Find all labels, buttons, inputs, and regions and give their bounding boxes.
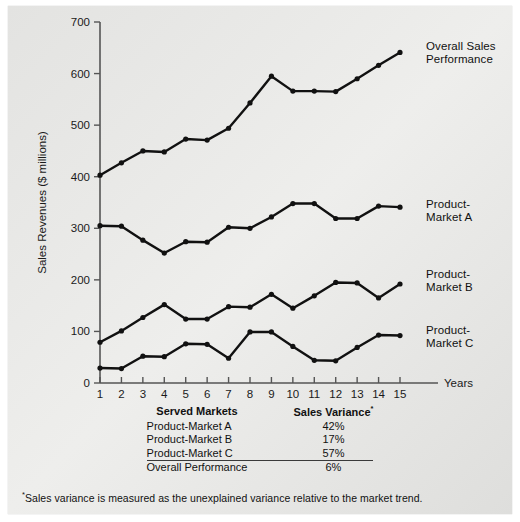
data-point	[97, 340, 102, 345]
footnote-text: Sales variance is measured as the unexpl…	[25, 492, 423, 504]
data-point	[162, 250, 167, 255]
data-point	[333, 280, 338, 285]
y-tick-label: 100	[71, 325, 90, 337]
cell-sales-variance: 17%	[293, 433, 373, 447]
data-point	[162, 149, 167, 154]
x-tick-label: 12	[329, 388, 342, 400]
y-tick-label: 700	[71, 16, 90, 28]
data-point	[290, 344, 295, 349]
data-point	[119, 160, 124, 165]
figure-panel: 0100200300400500600700123456789101112131…	[8, 6, 512, 514]
cell-total-label: Overall Performance	[147, 461, 294, 475]
data-point	[397, 333, 402, 338]
x-tick-label: 13	[351, 388, 364, 400]
table-row: Product-Market C57%	[147, 447, 374, 461]
x-tick-label: 6	[204, 388, 210, 400]
x-tick-label: 11	[308, 388, 320, 400]
data-point	[183, 341, 188, 346]
data-point	[269, 74, 274, 79]
series-label-product-market-a: Product- Market A	[426, 198, 472, 224]
data-point	[247, 329, 252, 334]
data-point	[290, 306, 295, 311]
data-point	[269, 329, 274, 334]
data-point	[290, 201, 295, 206]
data-point	[355, 280, 360, 285]
column-header-sales-variance: Sales Variance*	[293, 404, 373, 420]
table-body: Product-Market A42%Product-Market B17%Pr…	[147, 420, 374, 475]
data-point	[97, 173, 102, 178]
table-row: Product-Market B17%	[147, 433, 374, 447]
series-line-3	[100, 332, 400, 369]
data-point	[312, 358, 317, 363]
data-point	[269, 214, 274, 219]
data-point	[183, 239, 188, 244]
data-point	[397, 281, 402, 286]
cell-market-name: Product-Market A	[147, 420, 294, 434]
column-header-served-markets: Served Markets	[147, 404, 294, 420]
y-axis-title: Sales Revenues ($ millions)	[36, 131, 48, 274]
table-header-row: Served Markets Sales Variance*	[147, 404, 374, 420]
data-point	[376, 332, 381, 337]
data-point	[140, 148, 145, 153]
x-tick-label: 5	[183, 388, 189, 400]
data-point	[333, 358, 338, 363]
data-point	[97, 223, 102, 228]
cell-total-variance: 6%	[293, 461, 373, 475]
data-point	[290, 89, 295, 94]
x-tick-label: 3	[140, 388, 146, 400]
data-point	[183, 136, 188, 141]
table-row-total: Overall Performance6%	[147, 461, 374, 475]
data-point	[376, 63, 381, 68]
y-tick-label: 200	[71, 274, 90, 286]
y-tick-label: 300	[71, 222, 90, 234]
data-point	[205, 342, 210, 347]
data-point	[119, 224, 124, 229]
data-point	[119, 328, 124, 333]
x-tick-label: 8	[247, 388, 253, 400]
x-tick-label: 10	[286, 388, 299, 400]
data-point	[226, 225, 231, 230]
column-header-sales-variance-text: Sales Variance	[293, 406, 370, 418]
data-point	[397, 205, 402, 210]
x-tick-label: 2	[118, 388, 124, 400]
data-point	[355, 76, 360, 81]
data-point	[247, 305, 252, 310]
data-point	[140, 354, 145, 359]
data-point	[355, 345, 360, 350]
x-axis-title: Years	[444, 377, 473, 389]
series-label-product-market-c: Product- Market C	[426, 324, 473, 350]
y-tick-label: 400	[71, 171, 90, 183]
sales-variance-table: Served Markets Sales Variance* Product-M…	[8, 404, 512, 475]
data-point	[355, 216, 360, 221]
data-point	[226, 356, 231, 361]
x-tick-label: 1	[97, 388, 103, 400]
data-point	[333, 89, 338, 94]
series-line-0	[100, 52, 400, 175]
y-tick-label: 500	[71, 119, 90, 131]
data-point	[205, 138, 210, 143]
x-tick-label: 14	[372, 388, 385, 400]
data-point	[312, 293, 317, 298]
data-point	[162, 302, 167, 307]
series-label-product-market-b: Product- Market B	[426, 268, 473, 294]
data-point	[140, 238, 145, 243]
data-point	[162, 354, 167, 359]
data-point	[226, 126, 231, 131]
data-point	[333, 216, 338, 221]
table-row: Product-Market A42%	[147, 420, 374, 434]
footnote: *Sales variance is measured as the unexp…	[22, 490, 502, 504]
data-point	[97, 365, 102, 370]
data-point	[397, 50, 402, 55]
data-point	[119, 366, 124, 371]
x-tick-label: 15	[394, 388, 407, 400]
footnote-marker-header: *	[371, 404, 374, 413]
data-point	[269, 292, 274, 297]
x-tick-label: 4	[161, 388, 168, 400]
cell-market-name: Product-Market B	[147, 433, 294, 447]
x-tick-label: 9	[268, 388, 274, 400]
data-point	[376, 295, 381, 300]
x-tick-label: 7	[225, 388, 231, 400]
data-point	[205, 316, 210, 321]
cell-market-name: Product-Market C	[147, 447, 294, 461]
data-point	[376, 204, 381, 209]
